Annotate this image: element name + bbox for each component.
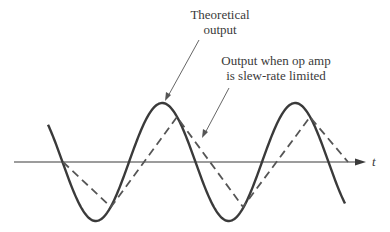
slew-limited-label: Output when op amp: [221, 53, 330, 68]
theoretical-output-label-line2: output: [203, 22, 237, 37]
theoretical-pointer-arrowhead: [165, 92, 171, 101]
time-axis-arrowhead: [355, 159, 366, 166]
theoretical-output-label: Theoretical: [190, 7, 250, 22]
slew-rate-diagram: t Theoretical output Output when op amp …: [0, 0, 390, 232]
slew-pointer-arrow: [204, 88, 229, 135]
theoretical-pointer-arrow: [167, 40, 199, 98]
time-axis-label: t: [372, 154, 376, 169]
slew-limited-label-line2: is slew-rate limited: [226, 68, 326, 83]
slew-pointer-arrowhead: [202, 129, 208, 138]
